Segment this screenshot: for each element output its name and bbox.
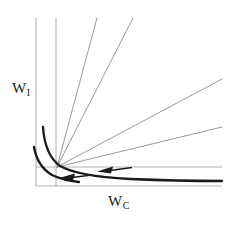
x-axis-label-subscript: C — [123, 200, 130, 211]
x-axis-label: WC — [108, 193, 129, 211]
trajectory-ray-shallow — [57, 127, 222, 167]
y-axis-label-base: W — [12, 80, 26, 96]
phase-portrait-figure: WI WC — [0, 0, 230, 225]
nullcline-group — [36, 18, 222, 186]
axis-group — [36, 18, 222, 186]
trajectory-ray-group — [57, 18, 222, 167]
separatrix-group — [34, 127, 222, 182]
trajectory-ray-steep-right — [57, 18, 133, 167]
y-axis-label: WI — [12, 80, 30, 98]
flow-arrow-outer-tail — [110, 168, 132, 171]
trajectory-ray-diagonal — [57, 79, 222, 167]
separatrix-upper-branch-path — [43, 127, 222, 181]
flow-arrow-inner-tail — [72, 175, 92, 178]
trajectory-ray-steep-left — [57, 18, 97, 167]
y-axis-label-subscript: I — [27, 87, 30, 98]
x-axis-label-base: W — [108, 193, 122, 209]
phase-portrait-canvas — [0, 0, 230, 225]
